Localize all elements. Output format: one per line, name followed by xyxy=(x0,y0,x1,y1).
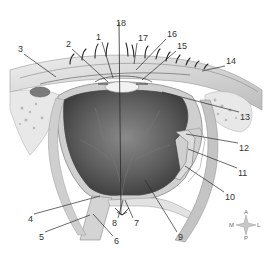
label-18: 18 xyxy=(116,18,126,28)
label-16: 16 xyxy=(167,29,177,39)
label-14: 14 xyxy=(226,56,236,66)
label-4: 4 xyxy=(28,214,33,224)
label-15: 15 xyxy=(177,41,187,51)
eye-illustration xyxy=(0,0,264,254)
label-13: 13 xyxy=(240,112,250,122)
label-9: 9 xyxy=(178,232,183,242)
label-3: 3 xyxy=(18,44,23,54)
compass-posterior: P xyxy=(244,235,248,241)
label-2: 2 xyxy=(66,39,71,49)
compass-lateral: L xyxy=(257,222,260,228)
lens xyxy=(105,82,139,93)
label-8: 8 xyxy=(112,218,117,228)
label-6: 6 xyxy=(114,236,119,246)
label-5: 5 xyxy=(39,232,44,242)
compass-rose: A P M L xyxy=(232,210,260,240)
compass-medial: M xyxy=(229,222,234,228)
label-1: 1 xyxy=(96,32,101,42)
label-12: 12 xyxy=(239,143,249,153)
label-17: 17 xyxy=(138,33,148,43)
label-7: 7 xyxy=(134,218,139,228)
label-11: 11 xyxy=(238,168,247,178)
label-10: 10 xyxy=(225,192,235,202)
compass-anterior: A xyxy=(244,209,248,215)
eye-anatomy-diagram: 123456789101112131415161718 A P M L xyxy=(0,0,264,254)
